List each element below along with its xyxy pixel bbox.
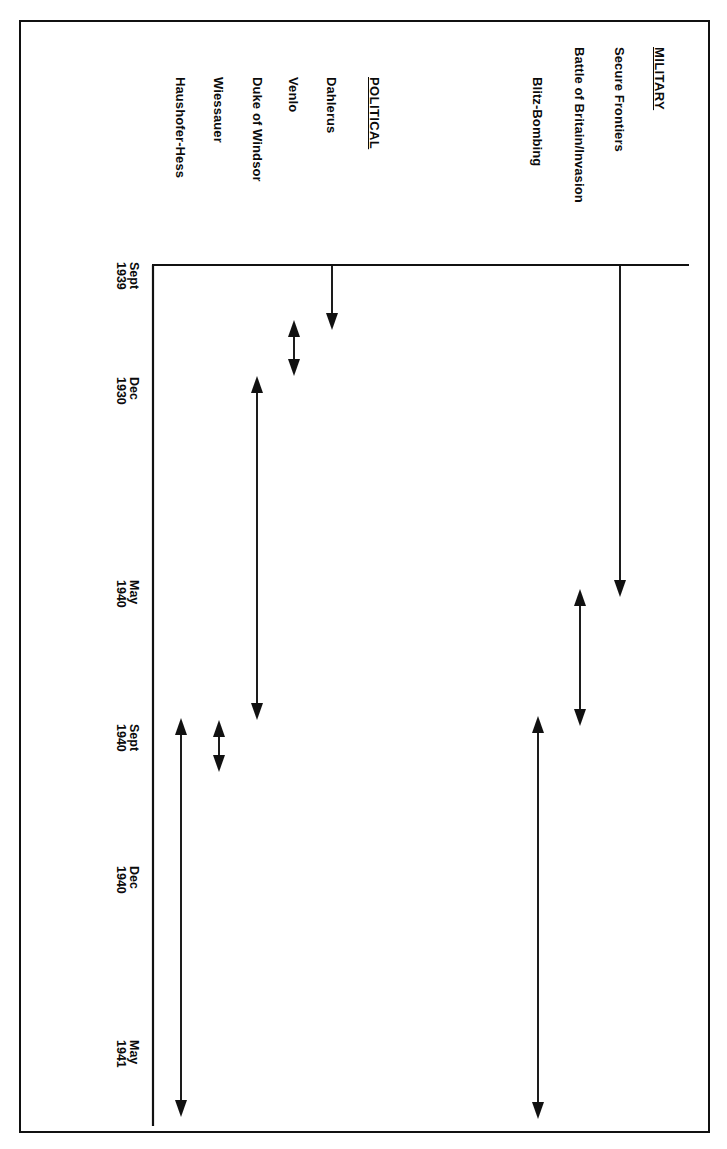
track-arrow-battle-of-britain: [574, 589, 586, 726]
track-arrow-dahlerus: [326, 266, 338, 330]
track-arrow-wiessauer: [213, 720, 225, 772]
diagram-canvas: MILITARY Secure Frontiers Battle of Brit…: [0, 0, 727, 1149]
track-arrow-secure-frontiers: [614, 266, 626, 597]
track-arrow-duke-of-windsor: [251, 376, 263, 720]
timeline-graphics: [0, 0, 727, 1149]
track-arrow-venlo: [288, 320, 300, 376]
track-arrow-blitz-bombing: [532, 716, 544, 1119]
track-arrow-haushofer-hess: [175, 718, 187, 1117]
